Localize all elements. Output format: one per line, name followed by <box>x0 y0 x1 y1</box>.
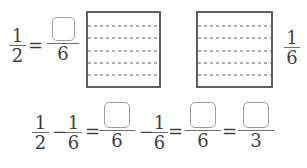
numerator: 1 <box>284 29 300 46</box>
numerator: 1 <box>9 27 26 44</box>
answer-input-box[interactable] <box>190 102 216 128</box>
answer-input-box[interactable] <box>104 102 130 128</box>
answer-input-box[interactable] <box>52 17 75 41</box>
denominator: 6 <box>65 134 82 151</box>
answer-input-box[interactable] <box>243 102 269 128</box>
grid-strip[interactable] <box>198 50 271 62</box>
grid-strip[interactable] <box>88 25 159 37</box>
grid-strip[interactable] <box>198 25 271 37</box>
fraction-one-sixth-2: 1 6 <box>151 114 168 151</box>
answer-fraction-1: 6 <box>99 102 135 149</box>
numerator: 1 <box>32 114 49 131</box>
answer-fraction-top: 6 <box>47 17 79 62</box>
fraction-one-sixth-1: 1 6 <box>65 114 82 151</box>
fraction-one-half-top: 1 2 <box>9 27 26 64</box>
numerator: 1 <box>151 114 168 131</box>
grid-strip[interactable] <box>88 37 159 49</box>
grid-strip[interactable] <box>88 13 159 25</box>
answer-fraction-3: 3 <box>238 102 274 149</box>
grid-strip[interactable] <box>198 62 271 74</box>
denominator: 6 <box>99 132 135 149</box>
fraction-one-sixth-label: 1 6 <box>284 29 300 66</box>
denominator: 6 <box>151 134 168 151</box>
equals-sign-3: = <box>222 123 237 141</box>
denominator: 6 <box>284 49 300 66</box>
grid-strip[interactable] <box>198 37 271 49</box>
grid-strip[interactable] <box>88 62 159 74</box>
numerator: 1 <box>65 114 82 131</box>
grid-strip[interactable] <box>88 50 159 62</box>
grid-strip[interactable] <box>88 74 159 86</box>
fraction-one-half-bottom: 1 2 <box>32 114 49 151</box>
denominator: 2 <box>9 47 26 64</box>
answer-fraction-2: 6 <box>185 102 221 149</box>
fraction-grid-left[interactable] <box>86 11 161 88</box>
denominator: 6 <box>185 132 221 149</box>
grid-strip[interactable] <box>198 74 271 86</box>
exercise-canvas: 1 2 = 6 1 6 1 2 − 1 6 = 6 − 1 6 = <box>0 0 307 168</box>
denominator: 3 <box>238 132 274 149</box>
equals-sign-top: = <box>28 37 43 55</box>
denominator: 2 <box>32 134 49 151</box>
equals-sign-1: = <box>85 123 100 141</box>
equals-sign-2: = <box>168 123 183 141</box>
fraction-grid-right[interactable] <box>196 11 273 88</box>
denominator: 6 <box>47 45 79 62</box>
grid-strip[interactable] <box>198 13 271 25</box>
